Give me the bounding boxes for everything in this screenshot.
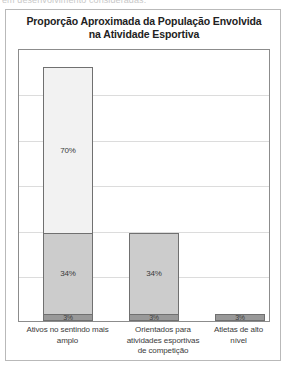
category-label-atletas-alto-nivel: Atletas de alto nível — [207, 325, 270, 346]
bar-segment-orientados-competicao-2: 34% — [129, 233, 179, 314]
chart-title-line-1: Proporção Aproximada da População Envolv… — [6, 15, 282, 28]
bar-group: 3% 34% 70% 3% 34% — [19, 50, 269, 321]
category-label-line-1: Ativos no sentindo mais — [26, 325, 108, 334]
category-label-line-2: atividades esportivas — [127, 336, 200, 345]
cropped-header-text: em desenvolvimento consideradas: — [0, 0, 286, 9]
category-label-line-1: Orientados para — [135, 325, 191, 334]
bar-segment-label-34pct-1: 34% — [60, 270, 75, 278]
category-label-line-3: de competição — [138, 346, 189, 355]
bar-segment-label-3pct-2: 3% — [149, 314, 159, 321]
chart-title-line-2: na Atividade Esportiva — [6, 28, 282, 41]
category-label-ativos-sentido-amplo: Ativos no sentindo mais amplo — [18, 325, 117, 346]
bar-segment-orientados-competicao-1: 34% — [43, 233, 93, 314]
category-label-orientados-competicao: Orientados para atividades esportivas de… — [119, 325, 207, 357]
bar-column-orientados-competicao[interactable]: 3% 34% — [129, 50, 179, 321]
bar-segment-atletas-alto-nivel-1: 3% — [43, 314, 93, 321]
bar-segment-label-70pct-1: 70% — [60, 147, 75, 155]
bar-column-ativos-sentido-amplo[interactable]: 3% 34% 70% — [43, 50, 93, 321]
category-axis-labels: Ativos no sentindo mais amplo Orientados… — [18, 325, 270, 361]
chart-title: Proporção Aproximada da População Envolv… — [6, 15, 282, 41]
category-label-line-2: amplo — [57, 336, 78, 345]
cropped-header-text-label: em desenvolvimento consideradas: — [2, 0, 286, 5]
bar-segment-label-34pct-2: 34% — [146, 270, 161, 278]
bar-segment-label-3pct-3: 3% — [235, 314, 245, 321]
category-label-line-1: Atletas de alto nível — [214, 325, 263, 345]
bar-segment-label-3pct-1: 3% — [63, 314, 73, 321]
bar-column-atletas-alto-nivel[interactable]: 3% — [215, 50, 265, 321]
bar-segment-atletas-alto-nivel-3: 3% — [215, 314, 265, 321]
bar-segment-atletas-alto-nivel-2: 3% — [129, 314, 179, 321]
bar-segment-ativos-amplo-1: 70% — [43, 67, 93, 233]
chart-figure: Proporção Aproximada da População Envolv… — [5, 9, 281, 361]
plot-area: 3% 34% 70% 3% 34% — [18, 49, 270, 322]
